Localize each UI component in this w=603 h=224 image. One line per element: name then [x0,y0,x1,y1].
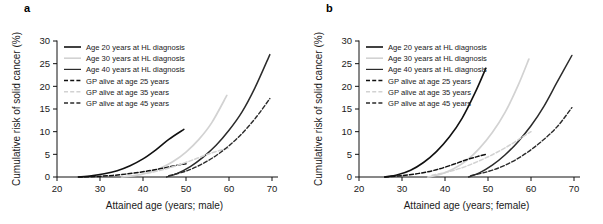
panel-a: a 051015202530203040506070Attained age (… [0,0,301,224]
panel-a-chart: 051015202530203040506070Attained age (ye… [0,0,301,224]
x-tick-label: 40 [440,183,451,194]
x-tick-label: 40 [138,183,149,194]
y-tick-label: 0 [347,171,352,182]
y-tick-label: 30 [39,35,50,46]
y-tick-label: 5 [347,149,352,160]
y-tick-label: 0 [45,171,50,182]
y-tick-label: 25 [341,58,352,69]
x-tick-label: 60 [224,183,235,194]
x-tick-label: 60 [526,183,537,194]
y-tick-label: 10 [39,126,50,137]
y-tick-label: 5 [45,149,50,160]
legend-label: GP alive at age 25 years [388,77,471,86]
y-tick-label: 15 [341,103,352,114]
legend-label: Age 20 years at HL diagnosis [388,43,487,52]
x-tick-label: 20 [52,183,63,194]
y-axis-title: Cumulative risk of solid cancer (%) [313,32,324,186]
legend-label: Age 40 years at HL diagnosis [86,65,185,74]
legend-label: Age 30 years at HL diagnosis [388,54,487,63]
x-tick-label: 50 [483,183,494,194]
x-tick-label: 20 [354,183,365,194]
y-tick-label: 30 [341,35,352,46]
panel-b-label: b [326,2,333,14]
y-axis-title: Cumulative risk of solid cancer (%) [11,32,22,186]
legend-label: Age 30 years at HL diagnosis [86,54,185,63]
panel-b-chart: 051015202530203040506070Attained age (ye… [302,0,603,224]
panel-a-label: a [24,2,30,14]
legend-label: GP alive at age 25 years [86,77,169,86]
data-curve [79,129,184,177]
legend-label: GP alive at age 35 years [388,88,471,97]
legend-label: GP alive at age 35 years [86,88,169,97]
x-axis-title: Attained age (years; female) [404,200,530,211]
legend-label: GP alive at age 45 years [388,99,471,108]
x-tick-label: 70 [569,183,580,194]
x-tick-label: 70 [267,183,278,194]
panel-b: b 051015202530203040506070Attained age (… [302,0,603,224]
y-tick-label: 10 [341,126,352,137]
x-tick-label: 50 [181,183,192,194]
figure-cumulative-risk: a 051015202530203040506070Attained age (… [0,0,603,224]
y-tick-label: 15 [39,103,50,114]
x-tick-label: 30 [95,183,106,194]
y-tick-label: 20 [39,81,50,92]
y-tick-label: 25 [39,58,50,69]
y-tick-label: 20 [341,81,352,92]
x-axis-title: Attained age (years; male) [106,200,223,211]
legend-label: Age 40 years at HL diagnosis [388,65,487,74]
x-tick-label: 30 [397,183,408,194]
legend-label: Age 20 years at HL diagnosis [86,43,185,52]
legend-label: GP alive at age 45 years [86,99,169,108]
data-curve [432,132,531,176]
